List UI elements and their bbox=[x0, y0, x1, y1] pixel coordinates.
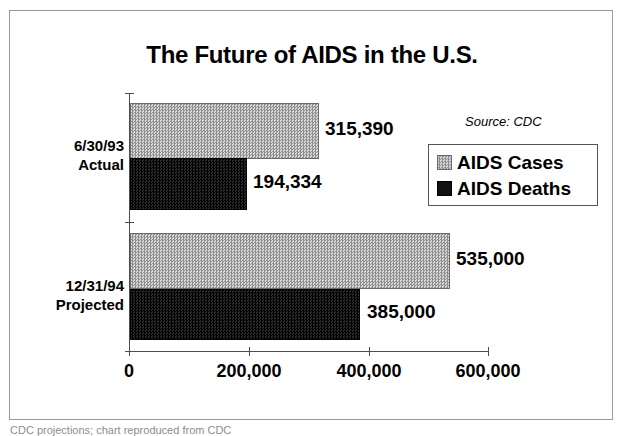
x-axis-line bbox=[129, 351, 489, 352]
legend-label-cases: AIDS Cases bbox=[457, 153, 564, 172]
category-label-line-1: 6/30/93 bbox=[20, 136, 124, 155]
category-label-line-2: Projected bbox=[20, 295, 124, 314]
category-label-group-1: 6/30/93 Actual bbox=[20, 136, 124, 174]
bar-value-deaths-1: 194,334 bbox=[253, 171, 322, 193]
chart-title: The Future of AIDS in the U.S. bbox=[10, 41, 614, 69]
chart-legend: AIDS Cases AIDS Deaths bbox=[428, 144, 598, 206]
y-axis-tick bbox=[125, 222, 134, 223]
chart-frame: The Future of AIDS in the U.S. Source: C… bbox=[9, 10, 613, 420]
legend-label-deaths: AIDS Deaths bbox=[457, 179, 571, 198]
x-axis-tick-label: 200,000 bbox=[216, 361, 281, 382]
legend-item-aids-cases: AIDS Cases bbox=[437, 149, 597, 175]
bar-value-cases-1: 315,390 bbox=[325, 118, 394, 140]
legend-swatch-icon-deaths bbox=[437, 181, 452, 196]
plot-area: 0 200,000 400,000 600,000 315,390 194,33… bbox=[129, 93, 489, 351]
category-label-line-2: Actual bbox=[20, 155, 124, 174]
bar-value-cases-2: 535,000 bbox=[456, 248, 525, 270]
bar-deaths-1 bbox=[130, 158, 247, 210]
legend-swatch-icon-cases bbox=[437, 155, 452, 170]
bar-value-deaths-2: 385,000 bbox=[367, 301, 436, 323]
bottom-caption: CDC projections; chart reproduced from C… bbox=[10, 424, 231, 436]
category-label-line-1: 12/31/94 bbox=[20, 276, 124, 295]
legend-item-aids-deaths: AIDS Deaths bbox=[437, 175, 597, 201]
x-axis-tick-label: 600,000 bbox=[455, 361, 520, 382]
bar-deaths-2 bbox=[130, 289, 360, 340]
category-label-group-2: 12/31/94 Projected bbox=[20, 276, 124, 314]
y-axis-tick bbox=[125, 93, 134, 94]
bar-cases-2 bbox=[130, 233, 450, 289]
x-axis-tick bbox=[129, 347, 130, 356]
x-axis-tick-label: 400,000 bbox=[336, 361, 401, 382]
bar-cases-1 bbox=[130, 103, 319, 159]
x-axis-tick bbox=[488, 347, 489, 356]
x-axis-tick bbox=[369, 347, 370, 356]
x-axis-tick-label: 0 bbox=[124, 361, 134, 382]
x-axis-tick bbox=[249, 347, 250, 356]
